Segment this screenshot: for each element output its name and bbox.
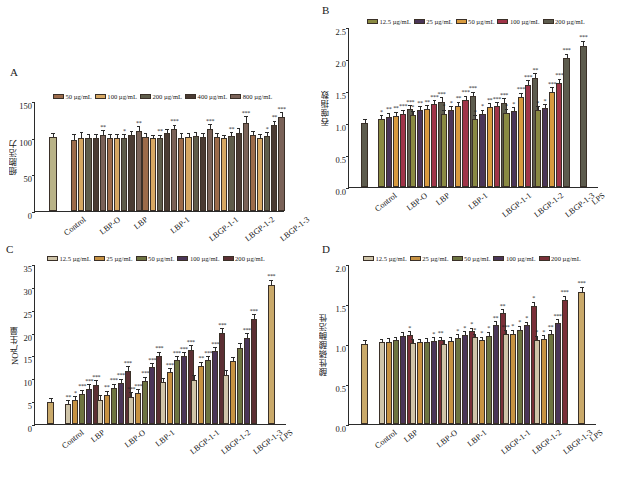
error-bar bbox=[583, 42, 584, 47]
error-cap bbox=[122, 134, 126, 135]
bar bbox=[212, 351, 218, 424]
error-cap bbox=[457, 102, 461, 103]
error-cap bbox=[549, 330, 553, 331]
error-bar bbox=[420, 340, 421, 342]
legend-label: 50 µg/mL bbox=[468, 18, 494, 25]
bar bbox=[223, 375, 229, 424]
error-cap bbox=[144, 133, 148, 134]
error-cap bbox=[536, 106, 540, 107]
error-bar bbox=[427, 339, 428, 341]
bar bbox=[118, 383, 124, 424]
error-cap bbox=[394, 337, 398, 338]
legend-item: 25 µg/mL bbox=[94, 255, 133, 262]
y-tick-label: 0.0 bbox=[335, 188, 349, 197]
error-cap bbox=[473, 115, 477, 116]
y-tick-label: 0.5 bbox=[335, 385, 349, 394]
bar bbox=[549, 92, 555, 187]
y-tick-label: 25 bbox=[24, 311, 36, 320]
legend-swatch bbox=[493, 256, 504, 262]
bar bbox=[250, 135, 256, 211]
panel-d: D0.00.51.01.52.0酸性磷酸酶活性12.5 µg/mL25 µg/m… bbox=[308, 243, 617, 488]
legend-label: 25 µg/mL bbox=[106, 255, 132, 262]
bar-group: *************** bbox=[130, 265, 162, 424]
error-bar bbox=[444, 341, 445, 343]
bar-group: *********** bbox=[537, 28, 568, 187]
bar bbox=[47, 402, 54, 424]
bar bbox=[167, 372, 173, 424]
legend-swatch bbox=[185, 94, 196, 100]
x-axis-label: LBGP-1-1 bbox=[501, 191, 534, 219]
error-cap bbox=[273, 121, 277, 122]
x-axis-label: LBP-1 bbox=[466, 428, 489, 449]
error-bar bbox=[53, 134, 54, 137]
error-cap bbox=[542, 335, 546, 336]
bar-group bbox=[35, 265, 67, 424]
error-bar bbox=[167, 130, 168, 133]
error-cap bbox=[512, 107, 516, 108]
legend-swatch bbox=[53, 94, 64, 100]
significance-marker: ** bbox=[493, 315, 498, 321]
legend-item: 50 µg/mL bbox=[452, 255, 491, 262]
x-axis-label: LBGP-1-3 bbox=[563, 191, 596, 219]
error-cap bbox=[488, 103, 492, 104]
legend-swatch bbox=[223, 256, 234, 262]
error-cap bbox=[425, 105, 429, 106]
bar bbox=[503, 334, 509, 424]
bar bbox=[49, 137, 57, 211]
error-cap bbox=[411, 339, 415, 340]
error-bar bbox=[226, 371, 227, 374]
legend-swatch bbox=[94, 256, 105, 262]
bar-group: ****** bbox=[224, 265, 256, 424]
significance-marker: *** bbox=[243, 327, 251, 333]
legend-label: 400 µg/mL bbox=[198, 93, 228, 100]
error-bar bbox=[163, 379, 164, 382]
bar bbox=[174, 360, 180, 424]
panel-letter-a: A bbox=[10, 66, 18, 78]
error-bar bbox=[201, 363, 202, 366]
error-bar bbox=[506, 331, 507, 334]
error-bar bbox=[68, 401, 69, 404]
legend-item: 12.5 µg/mL bbox=[47, 255, 91, 262]
error-cap bbox=[73, 396, 77, 397]
error-bar bbox=[381, 116, 382, 119]
error-cap bbox=[150, 363, 154, 364]
error-bar bbox=[434, 338, 435, 340]
significance-marker: ** bbox=[66, 394, 71, 400]
bar bbox=[535, 110, 541, 187]
error-cap bbox=[580, 287, 584, 288]
y-tick-label: 0.5 bbox=[335, 156, 349, 165]
error-bar bbox=[475, 335, 476, 338]
bar bbox=[100, 135, 106, 211]
bar bbox=[431, 104, 437, 187]
error-bar bbox=[217, 134, 218, 137]
bar bbox=[85, 138, 91, 211]
bar bbox=[441, 114, 447, 187]
bar bbox=[472, 119, 478, 187]
bar bbox=[486, 336, 492, 424]
error-bar bbox=[420, 107, 421, 110]
bar bbox=[114, 138, 120, 211]
significance-marker: *** bbox=[555, 72, 563, 78]
significance-marker: * bbox=[74, 390, 77, 396]
error-bar bbox=[89, 135, 90, 138]
bar bbox=[230, 361, 236, 424]
error-cap bbox=[449, 337, 453, 338]
error-cap bbox=[101, 130, 105, 131]
bar-group: ************ bbox=[67, 265, 99, 424]
bar bbox=[107, 138, 113, 211]
error-bar bbox=[145, 378, 146, 381]
significance-marker: * bbox=[473, 327, 476, 333]
bar bbox=[379, 342, 385, 424]
bar bbox=[494, 106, 500, 187]
error-cap bbox=[525, 322, 529, 323]
error-bar bbox=[117, 135, 118, 138]
bar bbox=[417, 342, 423, 424]
legend-swatch bbox=[410, 256, 421, 262]
error-cap bbox=[473, 334, 477, 335]
error-bar bbox=[451, 107, 452, 110]
bar bbox=[448, 110, 454, 187]
x-axis-label: LBP-1 bbox=[154, 428, 177, 449]
x-axis-label: LBGP-1-2 bbox=[243, 215, 276, 243]
y-tick-label: 5 bbox=[28, 402, 35, 411]
error-bar bbox=[558, 320, 559, 323]
